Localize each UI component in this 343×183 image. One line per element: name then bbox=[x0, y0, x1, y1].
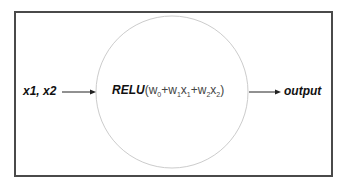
term-0: w0 bbox=[149, 83, 162, 97]
term-2: +w2x2 bbox=[191, 83, 221, 97]
input-arrow bbox=[62, 90, 96, 95]
neuron-formula: RELU(w0+w1x1+w2x2) bbox=[112, 83, 224, 98]
input-label: x1, x2 bbox=[23, 84, 56, 98]
activation-function: RELU bbox=[112, 83, 145, 97]
term-1: +w1x1 bbox=[161, 83, 191, 97]
output-arrow bbox=[249, 90, 281, 95]
output-label: output bbox=[284, 84, 321, 98]
close-paren: ) bbox=[220, 83, 224, 97]
